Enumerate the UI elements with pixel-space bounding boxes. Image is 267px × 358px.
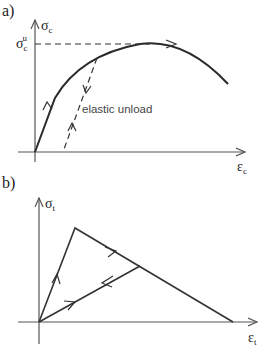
peak-stress-label: σcu (16, 33, 28, 53)
panel-a: a) σc σcu εc elastic unload (2, 2, 247, 176)
unload-reload-line (39, 266, 140, 322)
elastic-unload-annotation: elastic unload (82, 103, 152, 115)
y-axis-label-b: σt (45, 196, 56, 213)
panel-a-label: a) (2, 2, 14, 20)
panel-b-label: b) (2, 174, 15, 192)
softening-arrow-icon-b (105, 247, 116, 257)
x-axis-label-b: εt (248, 330, 257, 347)
unload-arrow-icon (83, 85, 91, 93)
panel-b: b) σt εt (2, 174, 257, 347)
x-axis-label-a: εc (237, 159, 247, 176)
y-axis-label-a: σc (41, 18, 53, 35)
tension-envelope (39, 228, 233, 322)
diagram-canvas: a) σc σcu εc elastic unload b) σt εt (0, 0, 267, 358)
compression-curve (35, 43, 228, 152)
